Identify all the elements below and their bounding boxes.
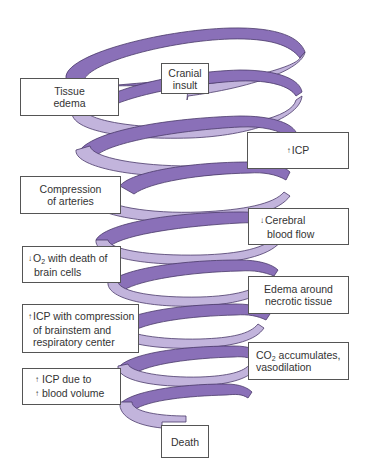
up-arrow-icon: ↑ <box>287 146 291 155</box>
down-arrow-icon: ↓ <box>28 254 32 263</box>
node-text: insult <box>173 79 198 91</box>
node-icp-brainstem: ↑ICP with compression of brainstem and r… <box>22 304 139 353</box>
o2-label: O <box>33 252 41 264</box>
node-text: ICP due to <box>42 373 91 385</box>
coil-9-back <box>120 384 252 410</box>
node-increased-icp: ↑ICP <box>247 132 349 169</box>
node-text: necrotic tissue <box>265 295 332 307</box>
node-text: ICP with compression <box>33 310 134 322</box>
node-death: Death <box>161 425 209 458</box>
node-text: with death of <box>45 252 107 264</box>
node-text: Cerebral <box>265 214 305 226</box>
node-icp-blood-volume: ↑ICP due to ↑blood volume <box>22 368 121 405</box>
node-cranial-insult: Cranial insult <box>161 63 209 94</box>
node-text: ICP <box>292 144 310 156</box>
node-tissue-edema: Tissue edema <box>20 78 119 116</box>
node-text: Tissue <box>54 85 85 97</box>
node-decreased-cerebral-blood-flow: ↓Cerebral blood flow <box>248 208 349 245</box>
node-text: blood volume <box>42 387 104 399</box>
coil-8-back <box>118 346 262 374</box>
node-text: blood flow <box>267 228 314 240</box>
co2-label: CO <box>256 349 272 361</box>
node-text: Edema around <box>264 283 333 295</box>
node-text: Cranial <box>168 67 201 79</box>
node-text: edema <box>53 97 85 109</box>
node-co2-accumulates: CO2 accumulates, vasodilation <box>248 342 349 380</box>
node-text: accumulates, <box>276 349 341 361</box>
up-arrow-icon: ↑ <box>28 312 32 321</box>
node-text: of arteries <box>47 195 94 207</box>
node-text: Compression <box>40 183 102 195</box>
node-compression-of-arteries: Compression of arteries <box>20 176 121 214</box>
up-arrow-icon: ↑ <box>35 375 39 384</box>
node-text: of brainstem and <box>28 324 111 336</box>
node-edema-necrotic: Edema around necrotic tissue <box>248 276 349 314</box>
up-arrow-icon: ↑ <box>35 389 39 398</box>
node-text: brain cells <box>28 266 81 278</box>
node-text: Death <box>171 436 199 448</box>
node-decreased-o2: ↓O2 with death of brain cells <box>22 246 121 283</box>
down-arrow-icon: ↓ <box>260 216 264 225</box>
node-text: respiratory center <box>28 336 115 348</box>
node-text: vasodilation <box>256 361 311 373</box>
